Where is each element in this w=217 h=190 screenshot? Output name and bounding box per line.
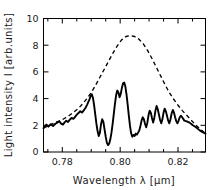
x-axis-tick-labels: 0.780.800.82 [52,156,189,167]
x-tick-label: 0.82 [167,156,188,167]
x-axis-title: Wavelength λ [µm] [73,175,175,186]
y-tick-label: 6 [32,66,38,77]
y-tick-label: 8 [32,40,38,51]
x-tick-label: 0.80 [110,156,131,167]
y-tick-label: 4 [32,93,38,104]
y-tick-label: 10 [26,13,38,24]
y-tick-label: 2 [32,120,38,131]
y-axis-title: Light intensity I [arb.units] [3,13,14,158]
x-tick-label: 0.78 [52,156,73,167]
y-tick-label: 0 [32,146,38,157]
figure-container: 0.780.800.82 0246810 Wavelength λ [µm] L… [0,0,217,190]
spectrum-chart: 0.780.800.82 0246810 Wavelength λ [µm] L… [0,0,217,190]
